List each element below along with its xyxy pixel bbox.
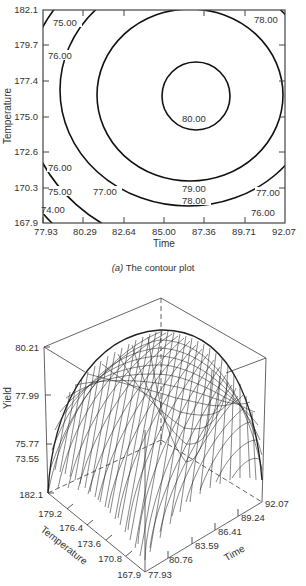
y-tick-label: 172.6: [14, 146, 38, 157]
temperature-tick-label: 179.2: [38, 508, 62, 519]
contour-label: 75.00: [48, 186, 72, 197]
x-tick-label: 89.71: [232, 226, 256, 237]
contour-label: 80.00: [182, 113, 206, 124]
x-tick-label: 92.07: [272, 226, 296, 237]
x-tick-label: 85.00: [152, 226, 176, 237]
z-tick-label: 80.21: [15, 342, 39, 353]
contour-label: 79.00: [182, 183, 206, 194]
contour-label: 78.00: [182, 195, 206, 206]
z-tick-label: 75.77: [15, 438, 39, 449]
time-tick-label: 92.07: [265, 498, 289, 509]
y-tick-label: 175.0: [14, 111, 38, 122]
x-axis-title: Time: [153, 238, 175, 249]
time-tick-label: 86.41: [218, 526, 242, 537]
y-tick-label: 170.3: [14, 182, 38, 193]
caption-prefix: (a): [112, 262, 124, 273]
temperature-tick-label: 176.4: [59, 522, 83, 533]
x-tick-label: 80.29: [73, 226, 97, 237]
temperature-tick-label: 173.6: [77, 538, 101, 549]
y-tick-label: 177.4: [14, 75, 38, 86]
contour-label: 76.00: [48, 162, 72, 173]
temperature-tick-label: 170.8: [98, 553, 122, 564]
y-axis-title: Temperature: [2, 87, 13, 144]
z-tick-label: 77.99: [15, 390, 39, 401]
z-tick-label: 73.55: [15, 453, 39, 464]
x-tick-label: 82.64: [112, 226, 136, 237]
time-tick-label: 89.24: [241, 512, 265, 523]
contour-plot: 75.00 76.00 78.00 80.00 79.00 78.00 76.0…: [0, 0, 306, 280]
x-tick-label: 77.93: [34, 226, 58, 237]
time-axis-title: Time: [222, 543, 247, 564]
time-tick-label: 83.59: [195, 540, 219, 551]
surface-mesh: [48, 330, 262, 560]
contour-label: 77.00: [256, 187, 280, 198]
contour-label: 74.00: [41, 204, 65, 215]
y-tick-label: 182.1: [14, 4, 38, 15]
bounding-box: [44, 298, 266, 572]
temperature-axis-title: Temperature: [39, 524, 90, 567]
x-tick-label: 87.36: [192, 226, 216, 237]
caption-text: The contour plot: [126, 262, 195, 273]
temperature-tick-label: 182.1: [19, 489, 43, 500]
contour-label: 75.00: [53, 17, 77, 28]
contour-label: 76.00: [251, 207, 275, 218]
contour-label: 76.00: [48, 50, 72, 61]
contour-label: 78.00: [254, 14, 278, 25]
figure-caption: (a) The contour plot: [0, 262, 306, 273]
z-axis-title: Yield: [2, 387, 13, 409]
plot-frame: [43, 10, 285, 223]
time-tick-label: 80.76: [169, 554, 193, 565]
contour-label: 77.00: [93, 186, 117, 197]
time-tick-label: 77.93: [148, 569, 172, 580]
y-tick-label: 179.7: [14, 39, 38, 50]
temperature-tick-label: 167.9: [117, 569, 141, 580]
